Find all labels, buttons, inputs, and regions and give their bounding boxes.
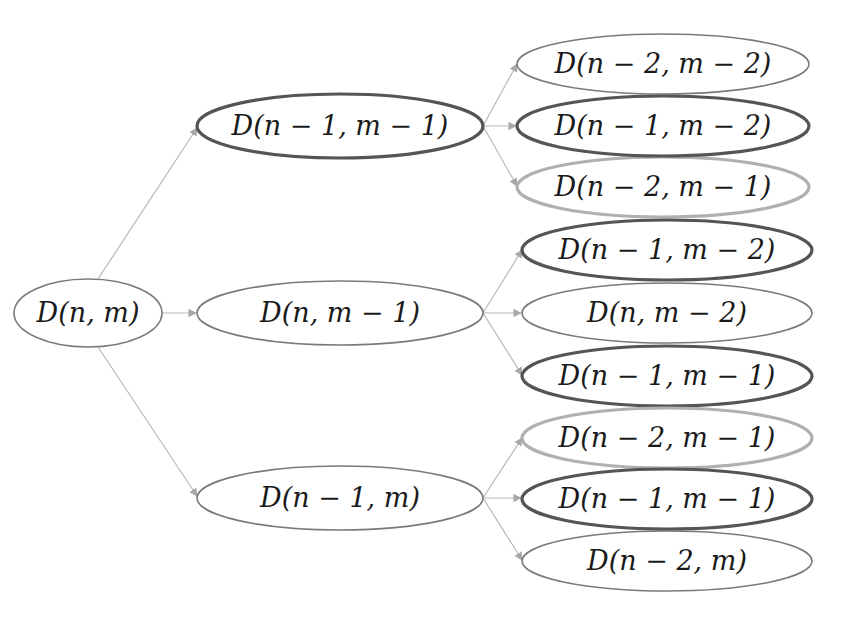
node-l1-b: D(n, m − 1) (197, 281, 483, 345)
node-label: D(n, m) (36, 297, 140, 328)
node-label: D(n, m − 1) (259, 297, 420, 328)
node-label: D(n, m − 2) (586, 297, 747, 328)
node-label: D(n − 2, m − 2) (554, 48, 772, 79)
edge-l1-a-to-l2-a3 (483, 126, 517, 186)
node-l2-c2: D(n − 1, m − 1) (522, 469, 812, 529)
edge-l1-a-to-l2-a1 (483, 64, 517, 126)
node-label: D(n − 2, m − 1) (554, 171, 772, 202)
node-label: D(n − 1, m − 1) (231, 110, 449, 141)
node-label: D(n − 1, m − 1) (558, 360, 776, 391)
node-label: D(n − 2, m − 1) (558, 422, 776, 453)
node-l2-b1: D(n − 1, m − 2) (522, 220, 812, 280)
edge-root-to-l1-c (98, 347, 197, 496)
node-l2-b2: D(n, m − 2) (522, 283, 812, 343)
node-l1-a: D(n − 1, m − 1) (197, 94, 483, 158)
node-l2-b3: D(n − 1, m − 1) (522, 346, 812, 406)
edge-l1-b-to-l2-b1 (483, 250, 522, 313)
recursion-tree-diagram: D(n, m) D(n − 1, m − 1) D(n, m − 1) D(n … (0, 0, 849, 623)
edge-l1-c-to-l2-c1 (483, 438, 522, 498)
node-label: D(n − 1, m − 2) (554, 110, 772, 141)
node-l2-c3: D(n − 2, m) (522, 531, 812, 591)
node-l1-c: D(n − 1, m) (197, 466, 483, 530)
node-l2-a2: D(n − 1, m − 2) (517, 96, 809, 156)
node-label: D(n − 1, m − 1) (558, 483, 776, 514)
node-label: D(n − 2, m) (586, 545, 747, 576)
node-l2-a1: D(n − 2, m − 2) (517, 34, 809, 94)
node-label: D(n − 1, m) (259, 482, 420, 513)
node-l2-a3: D(n − 2, m − 1) (517, 157, 809, 217)
nodes-layer: D(n, m) D(n − 1, m − 1) D(n, m − 1) D(n … (14, 34, 812, 591)
node-label: D(n − 1, m − 2) (558, 234, 776, 265)
edge-l1-b-to-l2-b3 (483, 313, 522, 375)
edge-root-to-l1-a (98, 128, 197, 279)
edge-l1-c-to-l2-c3 (483, 498, 522, 560)
node-root: D(n, m) (14, 279, 162, 347)
node-l2-c1: D(n − 2, m − 1) (522, 408, 812, 468)
